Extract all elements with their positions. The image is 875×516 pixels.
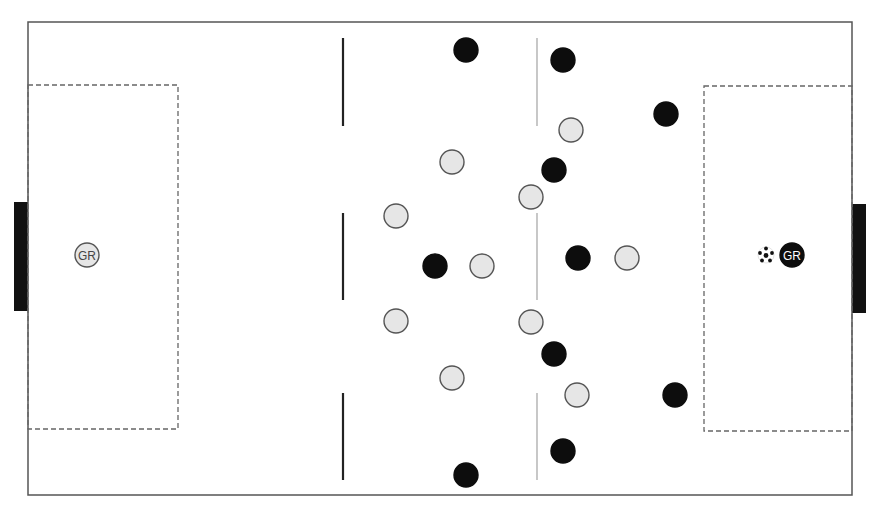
left-goal xyxy=(14,202,28,311)
soccer-ball-icon xyxy=(758,247,774,263)
light-team-player xyxy=(565,383,589,407)
dark-team-player xyxy=(454,38,478,62)
player-marker xyxy=(654,102,678,126)
player-marker xyxy=(663,383,687,407)
player-marker xyxy=(519,185,543,209)
player-marker xyxy=(615,246,639,270)
light-team-player xyxy=(440,366,464,390)
light-team-player xyxy=(615,246,639,270)
dark-team-player xyxy=(566,246,590,270)
player-marker xyxy=(565,383,589,407)
dark-team-player xyxy=(654,102,678,126)
light-team-player xyxy=(470,254,494,278)
player-marker xyxy=(384,204,408,228)
dark-team-player xyxy=(423,254,447,278)
player-marker xyxy=(440,366,464,390)
right-penalty-box xyxy=(704,86,852,431)
player-marker xyxy=(384,309,408,333)
dark-team-player xyxy=(551,48,575,72)
dark-team-player xyxy=(454,463,478,487)
player-marker xyxy=(423,254,447,278)
light-team-player xyxy=(519,185,543,209)
player-marker xyxy=(566,246,590,270)
player-label: GR xyxy=(783,249,801,263)
player-marker xyxy=(454,38,478,62)
dark-team-player xyxy=(542,158,566,182)
player-marker xyxy=(551,48,575,72)
football-pitch-diagram: GR GR xyxy=(0,0,875,516)
left-penalty-box xyxy=(28,85,178,429)
player-marker xyxy=(440,150,464,174)
light-team-player xyxy=(519,310,543,334)
dark-team-player xyxy=(663,383,687,407)
right-goal xyxy=(852,204,866,313)
player-marker xyxy=(551,439,575,463)
light-team-player xyxy=(384,309,408,333)
player-label: GR xyxy=(78,249,96,263)
player-marker xyxy=(542,342,566,366)
dark-team-player xyxy=(542,342,566,366)
light-team-goalkeeper: GR xyxy=(75,243,99,267)
player-marker xyxy=(519,310,543,334)
light-team-player xyxy=(384,204,408,228)
light-team-player xyxy=(440,150,464,174)
light-team-player xyxy=(559,118,583,142)
dark-team-player xyxy=(551,439,575,463)
player-marker xyxy=(559,118,583,142)
dark-team-goalkeeper: GR xyxy=(780,243,804,267)
player-marker xyxy=(470,254,494,278)
player-marker xyxy=(454,463,478,487)
player-marker xyxy=(542,158,566,182)
